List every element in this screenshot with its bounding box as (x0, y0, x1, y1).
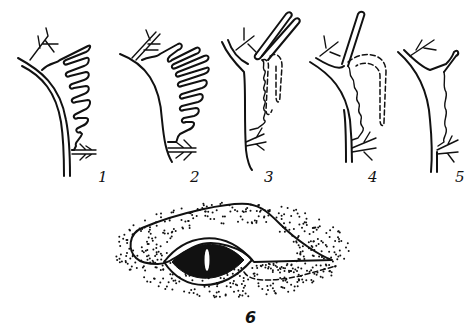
stipple-dot (188, 292, 190, 294)
stipple-dot (331, 271, 333, 273)
stipple-dot (204, 286, 206, 288)
stipple-dot (322, 242, 324, 244)
stipple-dot (244, 285, 246, 287)
stipple-dot (251, 221, 253, 223)
stipple-dot (266, 293, 268, 295)
stipple-dot (233, 280, 235, 282)
stipple-dot (298, 278, 300, 280)
stipple-dot (318, 256, 320, 258)
stipple-dot (159, 282, 161, 284)
stipple-dot (258, 204, 260, 206)
stipple-dot (299, 247, 301, 249)
stipple-dot (282, 267, 284, 269)
stipple-dot (163, 229, 165, 231)
stipple-dot (298, 224, 300, 226)
stipple-dot (125, 255, 127, 257)
stipple-dot (169, 220, 171, 222)
stipple-dot (146, 249, 148, 251)
stipple-dot (284, 279, 286, 281)
stipple-dot (328, 251, 330, 253)
stipple-dot (337, 255, 339, 257)
stipple-dot (312, 255, 314, 257)
stipple-dot (329, 236, 331, 238)
stipple-dot (120, 253, 122, 255)
stipple-dot (125, 260, 127, 262)
stipple-dot (335, 254, 337, 256)
stipple-dot (281, 206, 283, 208)
stipple-dot (293, 210, 295, 212)
stipple-dot (221, 222, 223, 224)
stipple-dot (272, 283, 274, 285)
stipple-dot (204, 211, 206, 213)
stipple-dot (263, 216, 265, 218)
stipple-dot (149, 226, 151, 228)
stipple-dot (296, 281, 298, 283)
panel-1-label: 1 (98, 168, 108, 186)
panel-1-folded-organ (42, 46, 90, 150)
stipple-dot (157, 259, 159, 261)
stipple-dot (243, 280, 245, 282)
stipple-dot (171, 278, 173, 280)
panel-6-pupil (205, 249, 210, 271)
stipple-dot (169, 273, 171, 275)
stipple-dot (119, 261, 121, 263)
stipple-dot (129, 258, 131, 260)
stipple-dot (229, 282, 231, 284)
stipple-dot (156, 213, 158, 215)
stipple-dot (221, 202, 223, 204)
stipple-dot (237, 290, 239, 292)
stipple-dot (282, 280, 284, 282)
stipple-dot (330, 275, 332, 277)
stipple-dot (251, 267, 253, 269)
stipple-dot (169, 262, 171, 264)
stipple-dot (338, 238, 340, 240)
stipple-dot (245, 292, 247, 294)
stipple-dot (158, 251, 160, 253)
stipple-dot (209, 290, 211, 292)
stipple-dot (321, 250, 323, 252)
stipple-dot (181, 227, 183, 229)
panel-3-label: 3 (264, 168, 274, 186)
stipple-dot (178, 281, 180, 283)
stipple-dot (265, 264, 267, 266)
diagram-figure: 1 2 (0, 0, 476, 334)
stipple-dot (146, 281, 148, 283)
stipple-dot (208, 286, 210, 288)
stipple-dot (283, 222, 285, 224)
stipple-dot (175, 282, 177, 284)
stipple-dot (216, 285, 218, 287)
stipple-dot (325, 232, 327, 234)
stipple-dot (301, 227, 303, 229)
stipple-dot (220, 277, 222, 279)
panel-5-label: 5 (455, 168, 465, 186)
stipple-dot (152, 260, 154, 262)
stipple-dot (284, 267, 286, 269)
panel-4-dashed-outline (348, 55, 386, 126)
stipple-dot (254, 219, 256, 221)
panel-1-main-stem (18, 58, 70, 176)
panel-5-lower-branch-icon (437, 136, 458, 162)
stipple-dot (171, 212, 173, 214)
stipple-dot (309, 271, 311, 273)
stipple-dot (297, 258, 299, 260)
stipple-dot (167, 233, 169, 235)
stipple-dot (340, 240, 342, 242)
stipple-dot (160, 253, 162, 255)
stipple-dot (128, 229, 130, 231)
stipple-dot (210, 218, 212, 220)
stipple-dot (160, 213, 162, 215)
stipple-dot (260, 210, 262, 212)
stipple-dot (156, 244, 158, 246)
stipple-dot (212, 211, 214, 213)
stipple-dot (156, 253, 158, 255)
stipple-dot (256, 265, 258, 267)
stipple-dot (150, 281, 152, 283)
stipple-dot (123, 234, 125, 236)
stipple-dot (343, 258, 345, 260)
stipple-dot (256, 267, 258, 269)
stipple-dot (226, 285, 228, 287)
stipple-dot (289, 221, 291, 223)
stipple-dot (286, 281, 288, 283)
stipple-dot (330, 257, 332, 259)
stipple-dot (273, 290, 275, 292)
